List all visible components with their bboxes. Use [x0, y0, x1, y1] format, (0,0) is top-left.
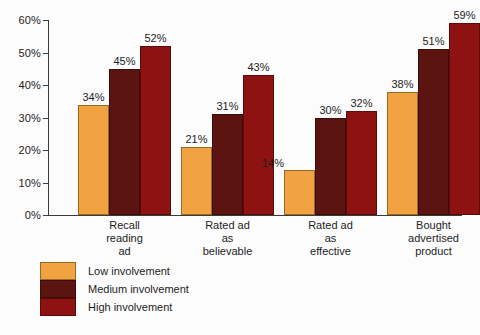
bar-value-effective-low: 14% — [262, 158, 284, 169]
bar-believable-medium[interactable]: 31% — [212, 114, 243, 215]
legend-item-low[interactable]: Low involvement — [40, 262, 240, 280]
y-tick-label-30: 30% — [18, 112, 41, 124]
legend-item-medium[interactable]: Medium involvement — [40, 280, 240, 298]
bar-value-recall-medium: 45% — [113, 56, 135, 67]
bar-bought-high[interactable]: 59% — [449, 23, 480, 215]
bar-believable-low[interactable]: 21% — [181, 147, 212, 215]
legend-swatch-medium-icon — [40, 280, 76, 298]
bar-recall-low[interactable]: 34% — [78, 105, 109, 216]
bar-bought-low[interactable]: 38% — [387, 92, 418, 216]
bar-value-believable-medium: 31% — [216, 101, 238, 112]
bar-value-believable-high: 43% — [247, 62, 269, 73]
bar-value-believable-low: 21% — [185, 134, 207, 145]
bar-bought-medium[interactable]: 51% — [418, 49, 449, 215]
x-axis-label-effective: Rated ad as effective — [307, 219, 354, 258]
bar-value-effective-medium: 30% — [319, 105, 341, 116]
bar-value-bought-low: 38% — [391, 79, 413, 90]
x-axis-label-recall: Recall reading ad — [101, 219, 148, 258]
chart-legend: Low involvement Medium involvement High … — [40, 262, 240, 316]
bar-effective-medium[interactable]: 30% — [315, 118, 346, 216]
legend-label-medium: Medium involvement — [88, 283, 189, 295]
plot-area: 0% 10% 20% 30% 40% 50% 60% — [48, 20, 462, 215]
x-axis-line — [48, 215, 462, 216]
bar-value-recall-low: 34% — [82, 92, 104, 103]
bar-group-bought: 38% 51% 59% Bought advertised product — [387, 20, 480, 215]
bar-value-bought-high: 59% — [453, 10, 475, 21]
bar-group-recall: 34% 45% 52% Recall reading ad — [78, 20, 171, 215]
bar-effective-low[interactable]: 14% — [284, 170, 315, 216]
bar-effective-high[interactable]: 32% — [346, 111, 377, 215]
bar-value-effective-high: 32% — [350, 98, 372, 109]
y-tick-label-0: 0% — [25, 209, 41, 221]
bar-recall-high[interactable]: 52% — [140, 46, 171, 215]
bar-group-effective: 14% 30% 32% Rated ad as effective — [284, 20, 377, 215]
x-axis-label-believable: Rated ad as believable — [203, 219, 253, 258]
y-tick-label-10: 10% — [18, 177, 41, 189]
legend-item-high[interactable]: High involvement — [40, 298, 240, 316]
bar-group-believable: 21% 31% 43% Rated ad as believable — [181, 20, 274, 215]
bar-value-recall-high: 52% — [144, 33, 166, 44]
bar-value-bought-medium: 51% — [422, 36, 444, 47]
y-tick-label-40: 40% — [18, 79, 41, 91]
y-tick-label-20: 20% — [18, 144, 41, 156]
y-tick-label-50: 50% — [18, 47, 41, 59]
y-tick-label-60: 60% — [18, 14, 41, 26]
x-axis-label-bought: Bought advertised product — [408, 219, 459, 258]
legend-label-low: Low involvement — [88, 265, 170, 277]
bar-believable-high[interactable]: 43% — [243, 75, 274, 215]
bar-recall-medium[interactable]: 45% — [109, 69, 140, 215]
legend-label-high: High involvement — [88, 301, 172, 313]
legend-swatch-high-icon — [40, 298, 76, 316]
y-axis-line — [48, 20, 49, 216]
legend-swatch-low-icon — [40, 262, 76, 280]
